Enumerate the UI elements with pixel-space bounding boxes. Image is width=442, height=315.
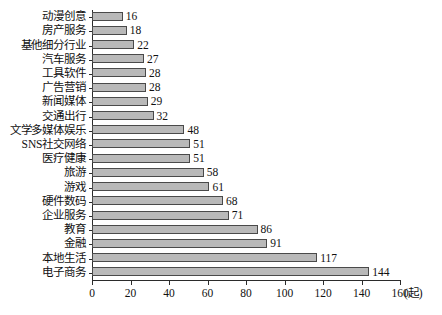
bar-row: 基他细分行业22 xyxy=(92,38,400,52)
bar-value-label: 48 xyxy=(187,125,199,137)
bar xyxy=(92,139,190,148)
bar-row: 汽车服务27 xyxy=(92,53,400,67)
bar-value-label: 71 xyxy=(232,210,244,222)
bar-value-label: 28 xyxy=(149,82,161,94)
category-label: 房产服务 xyxy=(42,26,86,38)
category-label: 医疗健康 xyxy=(42,153,86,165)
category-label: 企业服务 xyxy=(42,210,86,222)
bar xyxy=(92,54,144,63)
x-axis-tick xyxy=(400,281,401,285)
bar xyxy=(92,211,229,220)
bar-value-label: 86 xyxy=(261,225,273,237)
bar-value-label: 18 xyxy=(130,26,142,38)
plot-area: 动漫创意16房产服务18基他细分行业22汽车服务27工具软件28广告营销28新闻… xyxy=(92,10,400,280)
category-label: 电子商务 xyxy=(42,267,86,279)
bar-value-label: 27 xyxy=(147,54,159,66)
category-label: 游戏 xyxy=(64,182,86,194)
category-label: 新闻媒体 xyxy=(42,97,86,109)
bar-value-label: 51 xyxy=(193,153,205,165)
category-label: 工具软件 xyxy=(42,68,86,80)
bar xyxy=(92,239,267,248)
bar-value-label: 28 xyxy=(149,68,161,80)
bar xyxy=(92,111,154,120)
category-label: 动漫创意 xyxy=(42,11,86,23)
bar-value-label: 68 xyxy=(226,196,238,208)
bar xyxy=(92,168,204,177)
category-label: 金融 xyxy=(64,239,86,251)
bar-value-label: 61 xyxy=(212,182,224,194)
category-label: 基他细分行业 xyxy=(21,40,86,52)
bar-row: 企业服务71 xyxy=(92,209,400,223)
bar-value-label: 16 xyxy=(126,11,138,23)
bar-row: 新闻媒体29 xyxy=(92,95,400,109)
bar xyxy=(92,97,148,106)
bar-row: 文学多媒体娱乐48 xyxy=(92,124,400,138)
bar xyxy=(92,12,123,21)
bar xyxy=(92,26,127,35)
category-label: 本地生活 xyxy=(42,253,86,265)
category-label: 硬件数码 xyxy=(42,196,86,208)
x-axis-unit-label: (起) xyxy=(404,288,423,300)
bar-row: 医疗健康51 xyxy=(92,152,400,166)
bar-row: 旅游58 xyxy=(92,166,400,180)
bar xyxy=(92,83,146,92)
bar-row: 广告营销28 xyxy=(92,81,400,95)
bar-chart: 动漫创意16房产服务18基他细分行业22汽车服务27工具软件28广告营销28新闻… xyxy=(0,0,442,315)
bar-row: SNS社交网络51 xyxy=(92,138,400,152)
category-label: 教育 xyxy=(64,225,86,237)
bar-value-label: 144 xyxy=(372,267,389,279)
x-axis-tick-label: 20 xyxy=(125,288,137,300)
bar xyxy=(92,40,134,49)
bar-row: 交通出行32 xyxy=(92,109,400,123)
x-axis-tick-label: 100 xyxy=(276,288,293,300)
bar xyxy=(92,253,317,262)
x-axis-tick xyxy=(362,281,363,285)
bar-row: 本地生活117 xyxy=(92,252,400,266)
category-label: 汽车服务 xyxy=(42,54,86,66)
x-axis-tick xyxy=(246,281,247,285)
bar xyxy=(92,225,258,234)
category-label: SNS社交网络 xyxy=(22,139,86,151)
category-label: 交通出行 xyxy=(42,111,86,123)
bar-row: 金融91 xyxy=(92,237,400,251)
bar-value-label: 91 xyxy=(270,239,282,251)
bar-value-label: 117 xyxy=(320,253,337,265)
bar xyxy=(92,68,146,77)
bar-row: 游戏61 xyxy=(92,181,400,195)
bar-value-label: 58 xyxy=(207,168,219,180)
bar-value-label: 29 xyxy=(151,97,163,109)
bar xyxy=(92,182,209,191)
bar-row: 工具软件28 xyxy=(92,67,400,81)
x-axis-tick-label: 140 xyxy=(353,288,370,300)
bar-row: 硬件数码68 xyxy=(92,195,400,209)
bar xyxy=(92,125,184,134)
x-axis-tick xyxy=(208,281,209,285)
category-label: 旅游 xyxy=(64,168,86,180)
x-axis-tick-label: 40 xyxy=(163,288,175,300)
bar-row: 房产服务18 xyxy=(92,24,400,38)
x-axis-tick-label: 80 xyxy=(240,288,252,300)
bar-value-label: 32 xyxy=(157,111,169,123)
x-axis-tick-label: 0 xyxy=(89,288,95,300)
bar-row: 教育86 xyxy=(92,223,400,237)
category-label: 广告营销 xyxy=(42,82,86,94)
bar xyxy=(92,154,190,163)
bar-value-label: 22 xyxy=(137,40,149,52)
x-axis-tick xyxy=(323,281,324,285)
bar xyxy=(92,196,223,205)
x-axis-tick-label: 120 xyxy=(314,288,331,300)
x-axis-tick xyxy=(92,281,93,285)
bar-row: 电子商务144 xyxy=(92,266,400,280)
x-axis-tick-label: 60 xyxy=(202,288,214,300)
x-axis-tick xyxy=(285,281,286,285)
x-axis-tick xyxy=(169,281,170,285)
bar xyxy=(92,267,369,276)
category-label: 文学多媒体娱乐 xyxy=(10,125,86,137)
x-axis-tick xyxy=(131,281,132,285)
bar-row: 动漫创意16 xyxy=(92,10,400,24)
bar-value-label: 51 xyxy=(193,139,205,151)
